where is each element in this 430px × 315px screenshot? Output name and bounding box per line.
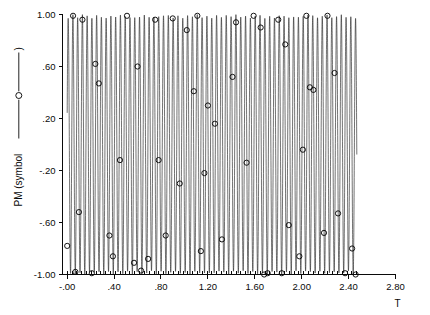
y-axis-tick-labels: 1.00.60.20-.20-.60-1.00 bbox=[34, 9, 56, 280]
x-tick-label: 2.80 bbox=[386, 281, 405, 292]
data-point-marker bbox=[124, 13, 129, 18]
x-tick-label: 2.00 bbox=[292, 281, 311, 292]
y-tick-label: .60 bbox=[42, 61, 55, 72]
data-point-marker bbox=[230, 74, 235, 79]
plot-canvas: 1.00.60.20-.20-.60-1.00 -.00.40.801.201.… bbox=[0, 0, 430, 315]
y-tick-label: -.20 bbox=[39, 165, 55, 176]
y-axis-tick-marks bbox=[59, 15, 63, 275]
plot-data-area bbox=[65, 13, 359, 277]
x-tick-label: .40 bbox=[107, 281, 120, 292]
y-tick-label: -1.00 bbox=[34, 269, 56, 280]
data-point-marker bbox=[276, 17, 281, 22]
x-axis-minor-tick-marks bbox=[67, 271, 357, 275]
x-tick-label: .80 bbox=[154, 281, 167, 292]
data-point-marker bbox=[65, 243, 70, 248]
data-point-marker bbox=[163, 233, 168, 238]
y-axis-title-prefix: PM (symbol bbox=[13, 154, 24, 207]
x-tick-label: 1.20 bbox=[199, 281, 218, 292]
data-point-marker bbox=[153, 17, 158, 22]
x-axis-tick-labels: -.00.40.801.201.602.002.402.80 bbox=[59, 281, 405, 292]
legend-circle-icon bbox=[16, 93, 22, 99]
x-axis-title: T bbox=[394, 298, 400, 309]
data-point-marker bbox=[156, 158, 161, 163]
x-tick-label: 2.40 bbox=[339, 281, 358, 292]
data-point-marker bbox=[251, 13, 256, 18]
chart-figure: 1.00.60.20-.20-.60-1.00 -.00.40.801.201.… bbox=[0, 0, 430, 315]
x-tick-label: 1.60 bbox=[246, 281, 265, 292]
y-axis-title-suffix: ) bbox=[13, 47, 24, 50]
data-point-marker bbox=[202, 171, 207, 176]
x-tick-label: -.00 bbox=[59, 281, 75, 292]
data-point-marker bbox=[138, 268, 143, 273]
y-tick-label: .20 bbox=[42, 113, 55, 124]
data-curve-pm bbox=[67, 15, 357, 275]
data-point-marker bbox=[191, 89, 196, 94]
data-point-marker bbox=[184, 28, 189, 33]
y-tick-label: 1.00 bbox=[37, 9, 56, 20]
y-tick-label: -.60 bbox=[39, 217, 55, 228]
y-axis-title: PM (symbol ) bbox=[13, 47, 24, 206]
data-point-marker bbox=[219, 237, 224, 242]
